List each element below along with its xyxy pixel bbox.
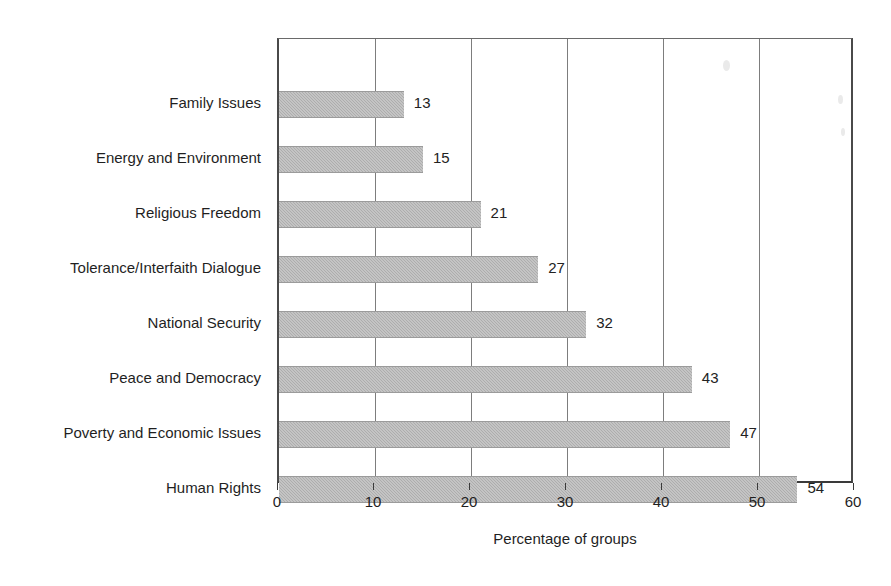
x-axis: 0102030405060 xyxy=(277,483,853,533)
bar-chart: Family IssuesEnergy and EnvironmentRelig… xyxy=(0,0,891,586)
bar-value-label: 21 xyxy=(491,202,508,224)
bar-value-label: 43 xyxy=(702,367,719,389)
x-tick-20 xyxy=(469,483,470,490)
x-tick-label-40: 40 xyxy=(653,493,670,510)
x-tick-label-50: 50 xyxy=(749,493,766,510)
x-tick-label-20: 20 xyxy=(461,493,478,510)
category-label: Poverty and Economic Issues xyxy=(6,423,261,443)
x-tick-10 xyxy=(373,483,374,490)
bar-value-label: 13 xyxy=(414,92,431,114)
bar-value-label: 15 xyxy=(433,147,450,169)
x-tick-label-10: 10 xyxy=(365,493,382,510)
x-tick-label-30: 30 xyxy=(557,493,574,510)
x-tick-label-0: 0 xyxy=(273,493,281,510)
x-tick-40 xyxy=(661,483,662,490)
category-label: Tolerance/Interfaith Dialogue xyxy=(6,258,261,278)
x-tick-0 xyxy=(277,483,278,490)
bar-value-label: 47 xyxy=(740,422,757,444)
x-tick-30 xyxy=(565,483,566,490)
bar-value-label: 27 xyxy=(548,257,565,279)
x-tick-label-60: 60 xyxy=(845,493,862,510)
category-label: Peace and Democracy xyxy=(6,368,261,388)
x-tick-60 xyxy=(853,483,854,490)
category-label: Energy and Environment xyxy=(6,148,261,168)
x-axis-title: Percentage of groups xyxy=(277,530,853,547)
y-axis-category-labels: Family IssuesEnergy and EnvironmentRelig… xyxy=(0,0,269,586)
category-label: Religious Freedom xyxy=(6,203,261,223)
bar-value-label: 32 xyxy=(596,312,613,334)
category-label: Human Rights xyxy=(6,478,261,498)
x-tick-50 xyxy=(757,483,758,490)
bar-value-labels: 1315212732434754 xyxy=(277,38,891,483)
category-label: National Security xyxy=(6,313,261,333)
category-label: Family Issues xyxy=(6,93,261,113)
